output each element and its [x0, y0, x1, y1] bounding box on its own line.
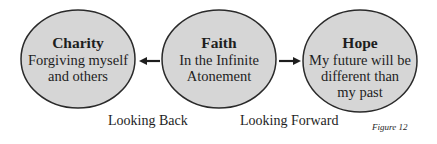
- node-title: Faith: [162, 35, 276, 51]
- node-description: Forgiving myself and others: [21, 52, 135, 84]
- caption-looking-forward: Looking Forward: [240, 113, 338, 129]
- arrow-right-icon: [279, 57, 301, 65]
- caption-looking-back: Looking Back: [108, 113, 188, 129]
- node-title: Hope: [303, 35, 417, 51]
- node-description: In the Infinite Atonement: [162, 52, 276, 84]
- node-faith: Faith In the Infinite Atonement: [162, 35, 276, 84]
- figure-label: Figure 12: [372, 122, 407, 132]
- node-title: Charity: [21, 35, 135, 51]
- node-charity: Charity Forgiving myself and others: [21, 35, 135, 84]
- node-description: My future will be different than my past: [303, 52, 417, 100]
- arrow-left-icon: [139, 57, 160, 65]
- node-hope: Hope My future will be different than my…: [303, 35, 417, 100]
